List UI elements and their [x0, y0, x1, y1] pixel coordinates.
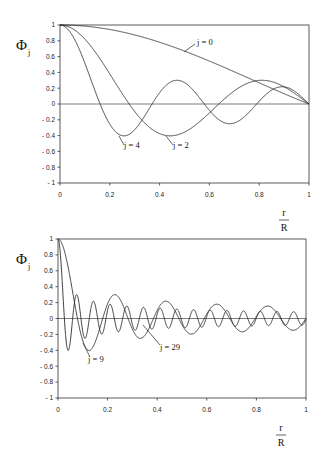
y-tick-label: 1	[49, 235, 53, 242]
y-axis-label-subscript: j	[27, 262, 30, 271]
y-tick-label: - 0.2	[40, 331, 53, 338]
annotation-leader	[166, 136, 173, 145]
y-tick-label: 1	[51, 21, 55, 28]
y-tick-label: - 0.2	[42, 116, 55, 123]
x-tick-label: 0.2	[105, 191, 114, 198]
annotation-leader	[184, 44, 195, 52]
y-tick-label: - 1	[47, 179, 55, 186]
series-line-j0	[60, 25, 309, 104]
y-axis-label: Φ	[16, 251, 27, 267]
x-tick-label: 0.8	[252, 406, 261, 413]
y-tick-label: 0.8	[46, 37, 55, 44]
x-axis-label-numerator: r	[282, 207, 286, 218]
y-tick-label: - 0.4	[42, 132, 55, 139]
y-axis-label: Φ	[16, 37, 27, 53]
y-tick-label: 0	[51, 100, 55, 107]
y-tick-label: - 0.8	[42, 164, 55, 171]
series-line-j2	[60, 25, 309, 136]
y-axis-ticks: 10.80.60.40.20- 0.2- 0.4- 0.6- 0.8- 1	[42, 21, 60, 186]
x-tick-label: 0	[56, 406, 60, 413]
x-axis-ticks: 00.20.40.60.81	[58, 183, 311, 198]
series-annotation: j = 9	[87, 354, 104, 364]
series-line-j9	[58, 239, 306, 351]
y-tick-label: - 0.6	[42, 148, 55, 155]
y-tick-label: 0.6	[44, 267, 53, 274]
series-annotation: j = 29	[159, 342, 180, 352]
y-tick-label: - 0.4	[40, 347, 53, 354]
x-axis-label-numerator: r	[279, 422, 283, 433]
x-tick-label: 0.4	[155, 191, 164, 198]
series-annotation: j = 2	[172, 140, 189, 150]
x-axis-label-denominator: R	[281, 222, 288, 233]
series-line-j29	[58, 239, 306, 351]
x-axis-ticks: 00.20.40.60.81	[56, 398, 308, 413]
x-tick-label: 0.8	[255, 191, 264, 198]
y-tick-label: - 0.8	[40, 378, 53, 385]
x-tick-label: 0.6	[205, 191, 214, 198]
x-tick-label: 0.4	[153, 406, 162, 413]
x-tick-label: 1	[307, 191, 311, 198]
y-tick-label: 0.6	[46, 53, 55, 60]
chart-bottom: 10.80.60.40.20- 0.2- 0.4- 0.6- 0.8- 100.…	[16, 235, 308, 448]
figure: 10.80.60.40.20- 0.2- 0.4- 0.6- 0.8- 100.…	[0, 0, 325, 462]
chart-top: 10.80.60.40.20- 0.2- 0.4- 0.6- 0.8- 100.…	[16, 21, 311, 233]
series-annotation: j = 4	[123, 140, 140, 150]
y-tick-label: 0.2	[46, 85, 55, 92]
y-tick-label: 0.2	[44, 299, 53, 306]
y-tick-label: - 1	[45, 394, 53, 401]
series-annotation: j = 0	[196, 37, 213, 47]
y-tick-label: 0.4	[46, 69, 55, 76]
y-axis-label-subscript: j	[27, 48, 30, 57]
x-tick-label: 1	[304, 406, 308, 413]
x-axis-label-denominator: R	[278, 437, 285, 448]
x-tick-label: 0	[58, 191, 62, 198]
x-tick-label: 0.2	[103, 406, 112, 413]
y-tick-label: 0.4	[44, 283, 53, 290]
y-axis-ticks: 10.80.60.40.20- 0.2- 0.4- 0.6- 0.8- 1	[40, 235, 58, 401]
series-line-j4	[60, 25, 309, 136]
x-tick-label: 0.6	[202, 406, 211, 413]
y-tick-label: - 0.6	[40, 363, 53, 370]
y-tick-label: 0	[49, 315, 53, 322]
y-tick-label: 0.8	[44, 251, 53, 258]
